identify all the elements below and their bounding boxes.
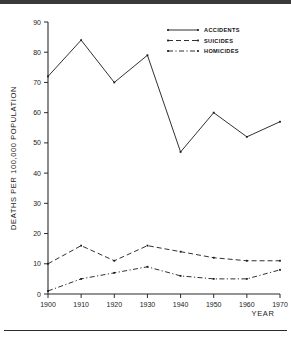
data-point-marker [47, 290, 49, 292]
y-tick-label: 20 [33, 230, 41, 237]
data-point-marker [147, 266, 149, 268]
data-point-marker [47, 263, 49, 265]
y-tick-label: 50 [33, 139, 41, 146]
legend-item-suicides: SUICIDES [167, 38, 233, 44]
y-tick-label: 0 [37, 291, 41, 298]
legend-marker-end [197, 29, 199, 31]
data-point-marker [213, 278, 215, 280]
legend-item-homicides: HOMICIDES [167, 48, 239, 54]
legend-marker-start [167, 50, 169, 52]
data-point-marker [113, 82, 115, 84]
data-point-marker [80, 245, 82, 247]
line-chart: 0102030405060708090 19001910192019301940… [0, 4, 291, 330]
x-tick-label: 1950 [206, 301, 222, 308]
x-tick-label: 1970 [272, 301, 288, 308]
data-point-marker [113, 272, 115, 274]
chart-axes [48, 22, 280, 294]
x-tick-label: 1960 [239, 301, 255, 308]
legend-label: SUICIDES [204, 38, 233, 44]
series-line [48, 40, 280, 152]
data-point-marker [279, 260, 281, 262]
y-tick-label: 80 [33, 49, 41, 56]
legend-label: HOMICIDES [204, 48, 239, 54]
data-point-marker [80, 39, 82, 41]
x-tick-label: 1900 [40, 301, 56, 308]
series-accidents [47, 39, 281, 153]
data-point-marker [246, 278, 248, 280]
x-tick-label: 1930 [140, 301, 156, 308]
series-line [48, 246, 280, 264]
data-point-marker [213, 112, 215, 114]
y-tick-label: 70 [33, 79, 41, 86]
chart-series-layer [47, 39, 281, 292]
data-point-marker [147, 245, 149, 247]
data-point-marker [213, 257, 215, 259]
legend-label: ACCIDENTS [204, 27, 240, 33]
chart-legend: ACCIDENTSSUICIDESHOMICIDES [167, 27, 240, 54]
series-suicides [47, 245, 281, 265]
data-point-marker [180, 151, 182, 153]
x-tick-label: 1920 [106, 301, 122, 308]
x-axis-title: YEAR [252, 309, 275, 318]
legend-item-accidents: ACCIDENTS [167, 27, 240, 33]
series-homicides [47, 266, 281, 292]
legend-marker-end [197, 50, 199, 52]
data-point-marker [113, 260, 115, 262]
data-point-marker [279, 269, 281, 271]
data-point-marker [279, 121, 281, 123]
chart-figure: 0102030405060708090 19001910192019301940… [0, 4, 291, 330]
y-axis-title: DEATHS PER 100,000 POPULATION [9, 86, 18, 230]
y-tick-label: 10 [33, 260, 41, 267]
legend-marker-end [197, 40, 199, 42]
x-tick-label: 1910 [73, 301, 89, 308]
data-point-marker [80, 278, 82, 280]
data-point-marker [47, 76, 49, 78]
legend-marker-start [167, 40, 169, 42]
x-tick-label: 1940 [173, 301, 189, 308]
y-tick-label: 30 [33, 200, 41, 207]
y-tick-label: 90 [33, 19, 41, 26]
data-point-marker [147, 54, 149, 56]
y-tick-label: 40 [33, 170, 41, 177]
series-line [48, 267, 280, 291]
page-bottom-rule [4, 330, 287, 331]
data-point-marker [246, 136, 248, 138]
data-point-marker [180, 275, 182, 277]
x-axis-ticks: 19001910192019301940195019601970 [40, 294, 288, 308]
y-axis-ticks: 0102030405060708090 [33, 19, 48, 298]
data-point-marker [246, 260, 248, 262]
legend-marker-start [167, 29, 169, 31]
y-tick-label: 60 [33, 109, 41, 116]
data-point-marker [180, 251, 182, 253]
